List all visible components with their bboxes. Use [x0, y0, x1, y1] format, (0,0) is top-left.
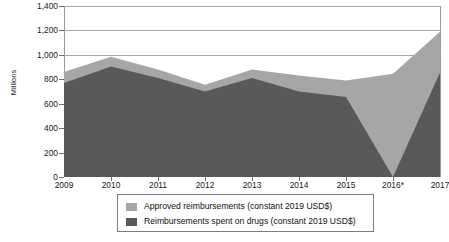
legend-label-approved: Approved reimbursements (constant 2019 U… — [144, 202, 332, 211]
legend-item-approved: Approved reimbursements (constant 2019 U… — [126, 199, 373, 214]
y-tick-label-1400: 1,400 — [6, 1, 58, 11]
y-axis-tick-labels: 02004006008001,0001,2001,400 — [0, 0, 58, 242]
y-tick-label-1200: 1,200 — [6, 25, 58, 35]
chart-legend: Approved reimbursements (constant 2019 U… — [117, 194, 374, 232]
x-tick-label-2017: 2017 — [431, 180, 449, 190]
legend-label-spent: Reimbursements spent on drugs (constant … — [144, 217, 356, 226]
x-tick-label-2010: 2010 — [102, 180, 121, 190]
y-tick-label-200: 200 — [6, 148, 58, 158]
x-tick-label-2011: 2011 — [149, 180, 167, 190]
legend-swatch-spent-icon — [126, 218, 137, 226]
series-plot — [64, 6, 441, 177]
y-tickmark-0 — [59, 177, 64, 178]
x-tick-label-2014: 2014 — [290, 180, 309, 190]
x-tick-label-2015: 2015 — [337, 180, 356, 190]
y-tick-label-400: 400 — [6, 123, 58, 133]
y-axis-title: Millions — [9, 48, 18, 118]
x-tick-label-2016-est: 2016* — [382, 180, 404, 190]
legend-swatch-approved-icon — [126, 203, 137, 211]
legend-item-spent: Reimbursements spent on drugs (constant … — [126, 214, 373, 229]
y-tick-label-0: 0 — [6, 172, 58, 182]
x-tick-label-2013: 2013 — [243, 180, 262, 190]
x-tick-label-2009: 2009 — [55, 180, 74, 190]
x-tick-label-2012: 2012 — [196, 180, 215, 190]
area-chart: 02004006008001,0001,2001,400 Millions 20… — [0, 0, 449, 242]
